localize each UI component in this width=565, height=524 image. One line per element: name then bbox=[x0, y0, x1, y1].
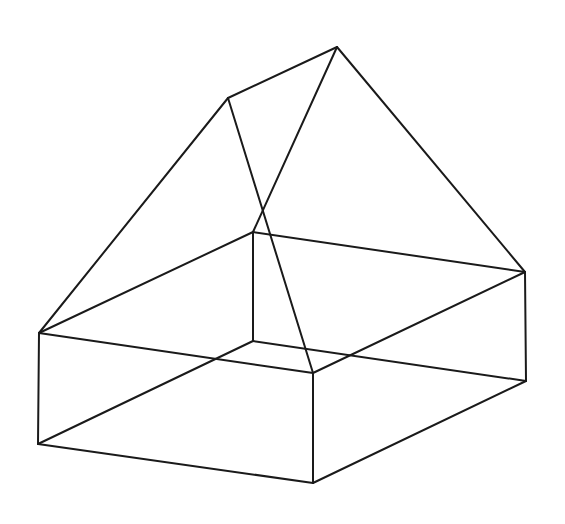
edge-top_left-bottom_left bbox=[38, 333, 39, 444]
edge-top_right-bottom_right bbox=[525, 272, 526, 381]
edge-top_left-apex_left bbox=[39, 98, 228, 333]
wireframe-house-diagram bbox=[0, 0, 565, 524]
edge-apex_right-top_right bbox=[337, 47, 525, 272]
edge-bottom_right-bottom_front bbox=[313, 381, 526, 483]
edge-bottom_front-bottom_left bbox=[38, 444, 313, 483]
edge-top_front-top_left bbox=[39, 333, 313, 373]
edge-apex_left-apex_right bbox=[228, 47, 337, 98]
edge-top_back-top_right bbox=[253, 232, 525, 272]
edge-apex_right-top_back bbox=[253, 47, 337, 232]
edge-top_left-top_back bbox=[39, 232, 253, 333]
edge-bottom_left-bottom_back bbox=[38, 341, 253, 444]
edge-bottom_back-bottom_right bbox=[253, 341, 526, 381]
edge-top_right-top_front bbox=[313, 272, 525, 373]
